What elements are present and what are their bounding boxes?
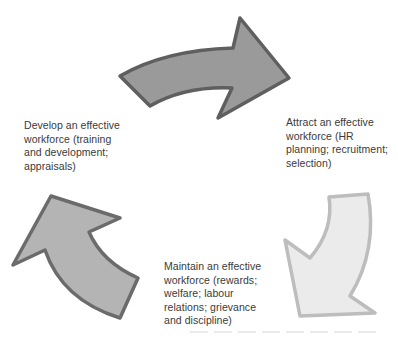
hr-cycle-diagram: Develop an effective workforce (training…	[0, 0, 398, 340]
stage-label-maintain: Maintain an effective workforce (rewards…	[164, 260, 304, 328]
stage-label-attract: Attract an effective workforce (HR plann…	[286, 116, 398, 170]
stage-label-develop: Develop an effective workforce (training…	[24, 119, 154, 173]
arrow-develop-to-attract-icon	[120, 18, 289, 118]
faint-cutoff-text-line	[190, 331, 380, 333]
arrow-maintain-to-develop-icon	[13, 196, 138, 318]
